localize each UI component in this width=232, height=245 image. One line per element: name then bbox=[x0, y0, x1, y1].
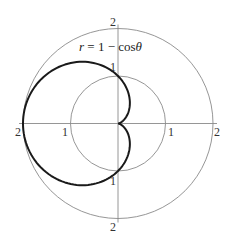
tick-label-bottom-outer: 2 bbox=[110, 220, 116, 234]
tick-label-left-inner: 1 bbox=[62, 125, 68, 139]
equation-label: r = 1 − cosθ bbox=[79, 39, 143, 54]
tick-label-right-inner: 1 bbox=[168, 125, 174, 139]
tick-label-top-inner: 1 bbox=[110, 60, 116, 74]
tick-label-bottom-inner: 1 bbox=[110, 174, 116, 188]
tick-label-left-outer: 2 bbox=[15, 125, 21, 139]
equation-theta: θ bbox=[136, 39, 143, 54]
tick-label-top-outer: 2 bbox=[110, 15, 116, 29]
equation-body: = 1 − cos bbox=[84, 39, 136, 54]
polar-plot: r = 1 − cosθ 2 1 1 2 2 1 1 2 bbox=[0, 0, 232, 245]
tick-label-right-outer: 2 bbox=[214, 125, 220, 139]
